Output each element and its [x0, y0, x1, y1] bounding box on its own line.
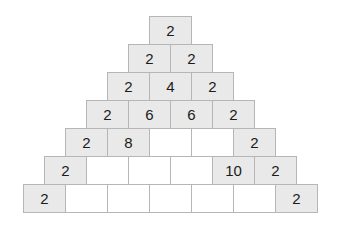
- pyramid-cell-empty[interactable]: [107, 184, 150, 213]
- pyramid-cell-filled[interactable]: 2: [65, 128, 108, 157]
- pyramid-cell-value: 2: [229, 107, 237, 122]
- pyramid-cell-filled[interactable]: 2: [191, 72, 234, 101]
- pyramid-cell-value: 6: [145, 107, 153, 122]
- pyramid-cell-empty[interactable]: [86, 156, 129, 185]
- pyramid-cell-empty[interactable]: [65, 184, 108, 213]
- pyramid-row: 22: [128, 44, 213, 73]
- pyramid-row: 282: [65, 128, 276, 157]
- pyramid-cell-filled[interactable]: 4: [149, 72, 192, 101]
- pyramid-cell-empty[interactable]: [128, 156, 171, 185]
- pyramid-cell-filled[interactable]: 2: [107, 72, 150, 101]
- pyramid-cell-value: 2: [166, 23, 174, 38]
- pyramid-cell-value: 2: [103, 107, 111, 122]
- pyramid-cell-value: 2: [145, 51, 153, 66]
- pyramid-cell-value: 2: [250, 135, 258, 150]
- pyramid-cell-empty[interactable]: [149, 184, 192, 213]
- pyramid-cell-empty[interactable]: [233, 184, 276, 213]
- pyramid-cell-empty[interactable]: [191, 128, 234, 157]
- pyramid-cell-filled[interactable]: 2: [149, 16, 192, 45]
- pyramid-cell-filled[interactable]: 6: [128, 100, 171, 129]
- pyramid-cell-value: 4: [166, 79, 174, 94]
- pyramid-cell-empty[interactable]: [170, 156, 213, 185]
- pyramid-cell-value: 2: [61, 163, 69, 178]
- pyramid-cell-filled[interactable]: 2: [170, 44, 213, 73]
- pyramid-cell-filled[interactable]: 2: [128, 44, 171, 73]
- pyramid-cell-value: 10: [225, 163, 242, 178]
- pyramid-cell-filled[interactable]: 2: [44, 156, 87, 185]
- pyramid-cell-value: 2: [292, 191, 300, 206]
- pyramid-cell-filled[interactable]: 2: [23, 184, 66, 213]
- pyramid-row: 2: [149, 16, 192, 45]
- pyramid-cell-value: 6: [187, 107, 195, 122]
- pyramid-row: 242: [107, 72, 234, 101]
- pyramid-cell-value: 2: [40, 191, 48, 206]
- pyramid-cell-filled[interactable]: 2: [212, 100, 255, 129]
- pyramid-cell-filled[interactable]: 10: [212, 156, 255, 185]
- pyramid-cell-empty[interactable]: [191, 184, 234, 213]
- pyramid-cell-value: 2: [124, 79, 132, 94]
- pyramid-cell-empty[interactable]: [149, 128, 192, 157]
- number-pyramid: 2222422662282210222: [0, 0, 341, 227]
- pyramid-cell-filled[interactable]: 8: [107, 128, 150, 157]
- pyramid-row: 22: [23, 184, 318, 213]
- pyramid-cell-value: 2: [82, 135, 90, 150]
- pyramid-cell-value: 2: [208, 79, 216, 94]
- pyramid-cell-filled[interactable]: 2: [254, 156, 297, 185]
- pyramid-cell-filled[interactable]: 2: [275, 184, 318, 213]
- pyramid-cell-value: 8: [124, 135, 132, 150]
- pyramid-cell-filled[interactable]: 6: [170, 100, 213, 129]
- pyramid-cell-filled[interactable]: 2: [233, 128, 276, 157]
- pyramid-cell-filled[interactable]: 2: [86, 100, 129, 129]
- pyramid-row: 2102: [44, 156, 297, 185]
- pyramid-cell-value: 2: [271, 163, 279, 178]
- pyramid-cell-value: 2: [187, 51, 195, 66]
- pyramid-row: 2662: [86, 100, 255, 129]
